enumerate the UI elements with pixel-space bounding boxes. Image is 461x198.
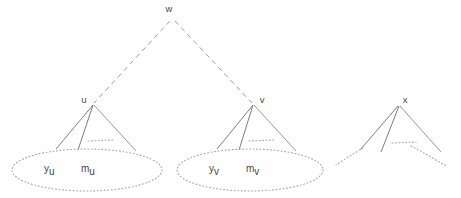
- set-label-y-v-sub: v: [214, 166, 219, 177]
- edge-w-to-v: [175, 21, 252, 103]
- set-label-y-u: yu: [44, 163, 55, 177]
- set-label-m-v: mv: [246, 163, 259, 177]
- cone-x-edge-right: [400, 106, 441, 152]
- set-label-m-u-sub: u: [89, 166, 95, 177]
- cone-v-ellipsis-icon: [249, 140, 274, 141]
- cone-u-group: [12, 105, 162, 191]
- cone-u-edge-right: [94, 105, 136, 151]
- cone-x-group: [336, 106, 446, 166]
- node-label-group: w u v x: [81, 3, 407, 105]
- cone-u-edge-middle: [78, 105, 93, 150]
- node-label-u: u: [81, 94, 86, 105]
- set-label-group: yu mu yv mv: [44, 163, 259, 177]
- cone-u-edge-left: [56, 105, 93, 149]
- set-label-y-v: yv: [209, 163, 219, 177]
- set-label-y-u-sub: u: [49, 166, 55, 177]
- set-label-m-u: mu: [81, 163, 95, 177]
- node-label-x: x: [403, 94, 408, 105]
- ellipse-x-arc-left: [336, 148, 363, 165]
- cone-v-edge-middle: [239, 105, 253, 150]
- diagram-svg: w u v x yu mu yv mv: [0, 0, 461, 198]
- set-label-m-v-base: m: [246, 163, 254, 174]
- cone-x-edge-middle: [381, 106, 399, 152]
- cone-u-ellipsis-icon: [88, 140, 113, 141]
- cone-x-ellipsis-icon: [392, 142, 416, 143]
- diagram-canvas: w u v x yu mu yv mv: [0, 0, 461, 198]
- ellipse-x-arc-right: [411, 146, 446, 166]
- cone-v-group: [177, 105, 323, 191]
- cone-v-edge-right: [254, 105, 296, 151]
- set-label-m-v-sub: v: [254, 166, 259, 177]
- node-label-v: v: [260, 94, 265, 105]
- dashed-edge-group: [94, 21, 252, 103]
- edge-w-to-u: [94, 21, 170, 103]
- node-label-w: w: [165, 3, 173, 14]
- cone-v-edge-left: [217, 105, 253, 149]
- set-label-m-u-base: m: [81, 163, 89, 174]
